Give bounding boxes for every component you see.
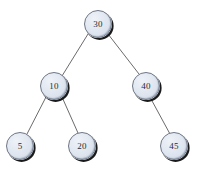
tree-node-label: 30 [93,20,102,29]
binary-tree-diagram: 30 10 40 5 20 45 [0,0,203,184]
tree-node-45[interactable]: 45 [160,132,188,160]
tree-node-label: 45 [169,142,178,151]
tree-node-5[interactable]: 5 [6,132,34,160]
tree-node-30[interactable]: 30 [84,10,112,38]
tree-edge [108,34,139,74]
tree-node-20[interactable]: 20 [68,132,96,160]
tree-edge [62,97,78,133]
tree-edge [151,99,170,134]
tree-edge [27,97,46,134]
tree-node-40[interactable]: 40 [132,72,160,100]
tree-node-label: 40 [141,82,150,91]
tree-node-label: 10 [49,82,58,91]
tree-node-10[interactable]: 10 [40,72,68,100]
tree-node-label: 20 [77,142,86,151]
tree-edge [62,34,88,76]
tree-node-label: 5 [18,142,23,151]
